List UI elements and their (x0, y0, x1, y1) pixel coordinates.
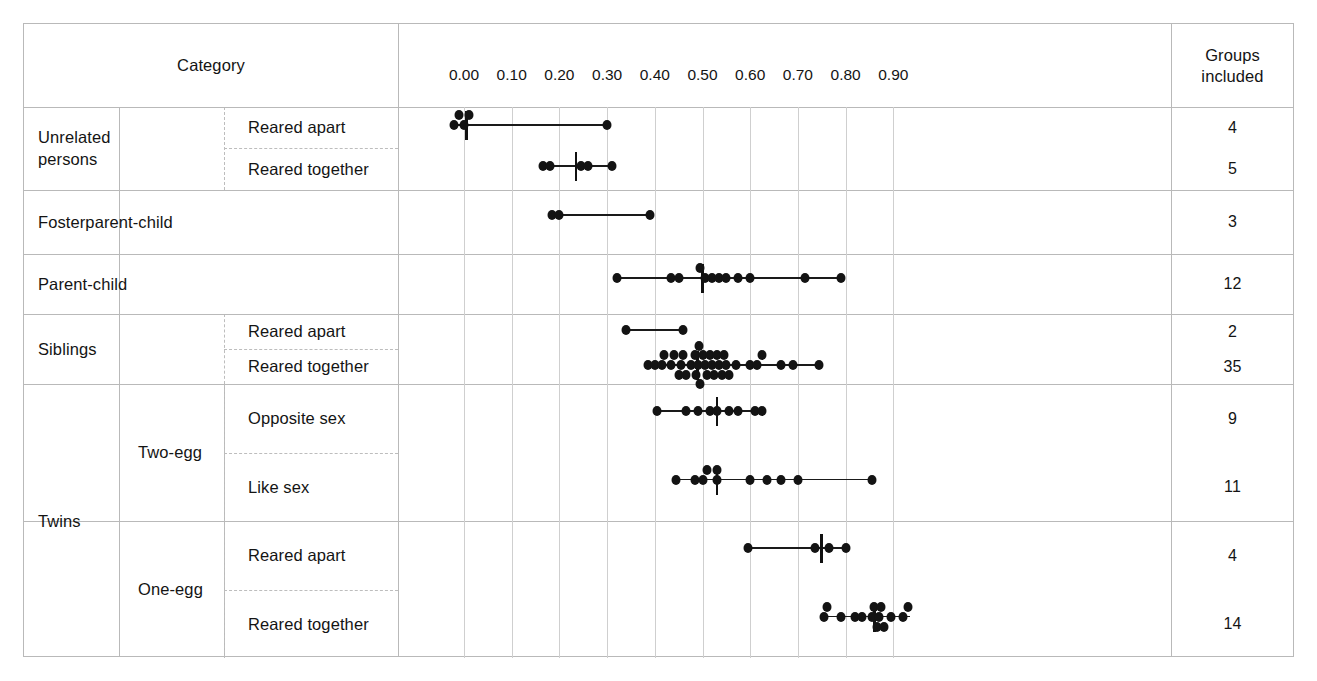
data-point (545, 161, 554, 171)
tick-label-0.40: 0.40 (640, 66, 670, 84)
data-point (758, 350, 767, 360)
data-point (746, 273, 755, 283)
data-point (777, 360, 786, 370)
data-point (722, 273, 731, 283)
data-point (777, 475, 786, 485)
data-point (672, 475, 681, 485)
gridline-0.70 (798, 107, 799, 658)
data-point (793, 475, 802, 485)
data-point (607, 161, 616, 171)
gridline-0.10 (512, 107, 513, 658)
data-point (660, 350, 669, 360)
range-line-0 (454, 124, 607, 126)
data-point (674, 370, 683, 380)
data-point (696, 379, 705, 389)
data-point (719, 350, 728, 360)
tick-label-0.10: 0.10 (497, 66, 527, 84)
median-tick-8 (820, 534, 823, 563)
gridline-0.90 (893, 107, 894, 658)
data-point (703, 465, 712, 475)
data-point (734, 406, 743, 416)
data-point (653, 406, 662, 416)
data-point (879, 622, 888, 632)
data-point (867, 475, 876, 485)
data-point (698, 475, 707, 485)
data-point (836, 273, 845, 283)
data-point (820, 612, 829, 622)
data-point (824, 543, 833, 553)
tick-label-0.80: 0.80 (831, 66, 861, 84)
data-point (758, 406, 767, 416)
data-point (801, 273, 810, 283)
tick-label-0.70: 0.70 (783, 66, 813, 84)
scatter-plot-area: 0.000.100.200.300.400.500.600.700.800.90 (24, 24, 1293, 656)
tick-label-0.50: 0.50 (687, 66, 717, 84)
data-point (734, 273, 743, 283)
data-point (603, 120, 612, 130)
gridline-0.30 (607, 107, 608, 658)
tick-label-0.90: 0.90 (878, 66, 908, 84)
data-point (886, 612, 895, 622)
tick-label-0.00: 0.00 (449, 66, 479, 84)
data-point (657, 360, 666, 370)
data-point (810, 543, 819, 553)
data-point (841, 543, 850, 553)
data-point (762, 475, 771, 485)
table-frame: Category Groups included Unrelated perso… (23, 23, 1294, 657)
tick-label-0.30: 0.30 (592, 66, 622, 84)
data-point (874, 612, 883, 622)
tick-label-0.60: 0.60 (735, 66, 765, 84)
data-point (724, 370, 733, 380)
data-point (677, 360, 686, 370)
data-point (667, 360, 676, 370)
data-point (696, 263, 705, 273)
data-point (858, 612, 867, 622)
data-point (724, 406, 733, 416)
data-point (743, 543, 752, 553)
range-line-2 (552, 214, 650, 216)
data-point (903, 602, 912, 612)
data-point (646, 210, 655, 220)
data-point (712, 406, 721, 416)
data-point (669, 350, 678, 360)
gridline-0.00 (464, 107, 465, 658)
data-point (679, 350, 688, 360)
range-line-4 (626, 329, 683, 331)
data-point (753, 360, 762, 370)
data-point (731, 360, 740, 370)
data-point (712, 465, 721, 475)
data-point (679, 325, 688, 335)
data-point (584, 161, 593, 171)
gridline-0.40 (655, 107, 656, 658)
data-point (622, 325, 631, 335)
gridline-0.20 (559, 107, 560, 658)
tick-label-0.20: 0.20 (544, 66, 574, 84)
data-point (898, 612, 907, 622)
data-point (464, 110, 473, 120)
gridline-0.60 (750, 107, 751, 658)
data-point (746, 475, 755, 485)
data-point (877, 602, 886, 612)
data-point (674, 273, 683, 283)
gridline-0.80 (846, 107, 847, 658)
data-point (460, 120, 469, 130)
figure-root: Category Groups included Unrelated perso… (0, 0, 1317, 681)
data-point (612, 273, 621, 283)
data-point (822, 602, 831, 612)
data-point (836, 612, 845, 622)
data-point (693, 406, 702, 416)
data-point (455, 110, 464, 120)
data-point (681, 406, 690, 416)
data-point (450, 120, 459, 130)
data-point (555, 210, 564, 220)
data-point (789, 360, 798, 370)
data-point (815, 360, 824, 370)
data-point (722, 360, 731, 370)
data-point (712, 475, 721, 485)
